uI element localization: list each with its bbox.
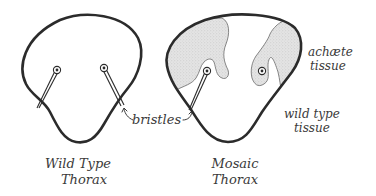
- bristles-annotation: bristles: [122, 108, 194, 127]
- mosaic-thorax: [160, 14, 310, 142]
- wild-type-caption-line1: Wild Type: [45, 156, 111, 171]
- wild-type-caption-line2: Thorax: [61, 172, 108, 187]
- captions: Wild Type Thorax Mosaic Thorax: [45, 156, 259, 187]
- wild-type-thorax-outline: [23, 15, 142, 142]
- achaete-tissue-label-line2: tissue: [310, 59, 346, 73]
- mosaic-empty-socket: [258, 67, 265, 74]
- bristles-label: bristles: [132, 112, 181, 127]
- wildtype-tissue-label-line1: wild type: [284, 107, 340, 121]
- wild-type-thorax: [23, 15, 142, 142]
- arrow-right-icon: [183, 112, 192, 120]
- mosaic-caption-line2: Thorax: [212, 172, 259, 187]
- mosaic-caption-line1: Mosaic: [211, 156, 260, 171]
- wildtype-tissue-label-line2: tissue: [294, 121, 330, 135]
- achaete-tissue-label-line1: achæte: [308, 45, 353, 59]
- diagram-canvas: bristles achæte tissue wild type: [0, 0, 376, 196]
